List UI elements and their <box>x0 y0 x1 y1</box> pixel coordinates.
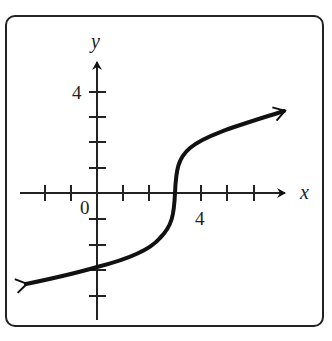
x-axis-label: x <box>299 181 309 203</box>
origin-label: 0 <box>80 197 90 218</box>
x-tick-label-4: 4 <box>195 208 205 229</box>
chart-canvas: y x 0 4 4 <box>0 0 332 341</box>
y-axis-label: y <box>89 30 100 53</box>
function-curve <box>26 111 284 284</box>
y-tick-label-4: 4 <box>72 82 82 103</box>
x-axis <box>20 185 285 201</box>
y-axis <box>89 62 106 320</box>
